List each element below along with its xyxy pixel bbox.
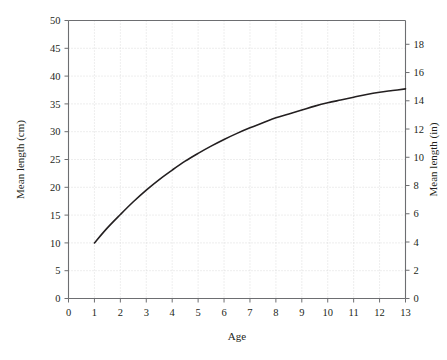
y-tick-label-right: 12 xyxy=(414,124,425,135)
y-tick-label-left: 50 xyxy=(50,15,61,26)
x-tick-label: 11 xyxy=(349,307,359,318)
y-tick-label-right: 10 xyxy=(414,152,425,163)
x-tick-label: 10 xyxy=(322,307,333,318)
y-tick-label-left: 15 xyxy=(50,210,61,221)
y-tick-label-left: 45 xyxy=(50,43,61,54)
x-tick-label: 2 xyxy=(118,307,123,318)
y-tick-label-left: 25 xyxy=(50,154,61,165)
x-tick-label: 1 xyxy=(92,307,97,318)
x-tick-label: 12 xyxy=(374,307,385,318)
y-tick-label-right: 18 xyxy=(414,39,425,50)
growth-curve-figure: 0510152025303540455002468101214161801234… xyxy=(0,0,447,360)
x-tick-label: 6 xyxy=(221,307,226,318)
y-axis-title-right: Mean length (in) xyxy=(427,122,440,196)
x-tick-label: 4 xyxy=(170,307,176,318)
y-tick-label-right: 16 xyxy=(414,67,425,78)
y-axis-title-left: Mean length (cm) xyxy=(14,120,27,199)
y-tick-label-right: 14 xyxy=(414,95,425,106)
y-tick-label-right: 0 xyxy=(414,293,419,304)
y-tick-label-left: 30 xyxy=(50,126,61,137)
y-tick-label-right: 2 xyxy=(414,265,419,276)
x-tick-label: 5 xyxy=(195,307,200,318)
y-tick-label-left: 10 xyxy=(50,238,61,249)
x-tick-label: 0 xyxy=(66,307,71,318)
x-tick-label: 13 xyxy=(400,307,411,318)
y-tick-label-right: 4 xyxy=(414,237,420,248)
y-tick-label-left: 0 xyxy=(55,293,60,304)
x-tick-label: 3 xyxy=(144,307,149,318)
x-tick-label: 7 xyxy=(247,307,252,318)
y-tick-label-right: 8 xyxy=(414,180,419,191)
y-tick-label-left: 20 xyxy=(50,182,61,193)
x-tick-label: 8 xyxy=(273,307,278,318)
chart-canvas: 0510152025303540455002468101214161801234… xyxy=(0,0,447,360)
y-tick-label-left: 5 xyxy=(55,265,60,276)
y-tick-label-left: 40 xyxy=(50,71,61,82)
y-tick-label-left: 35 xyxy=(50,99,61,110)
x-axis-title: Age xyxy=(228,330,246,342)
x-tick-label: 9 xyxy=(299,307,304,318)
y-tick-label-right: 6 xyxy=(414,208,419,219)
